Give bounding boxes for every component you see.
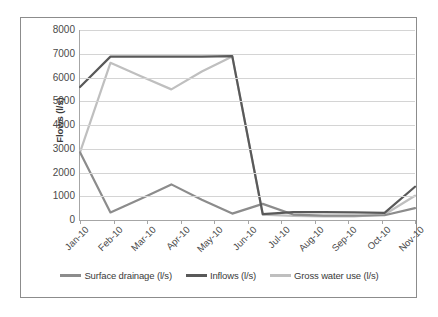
y-axis-tick-label: 6000 [35, 73, 75, 83]
gridline [80, 101, 415, 102]
x-axis-tick-label: Feb-10 [88, 224, 124, 260]
chart-legend: Surface drainage (l/s)Inflows (l/s)Gross… [21, 270, 418, 281]
legend-line-swatch [60, 274, 81, 277]
gridline [80, 149, 415, 150]
y-axis-tick-label: 7000 [35, 49, 75, 59]
x-axis-tick-label: May-10 [189, 224, 225, 260]
gridline [80, 125, 415, 126]
legend-line-swatch [186, 274, 207, 277]
chart-plot-wrapper: Flows (l/s) 8000700060005000400030002000… [21, 18, 418, 299]
y-axis-tick-labels: 800070006000500040003000200010000 [35, 18, 75, 299]
x-axis-tick-label: Oct-10 [356, 224, 392, 260]
x-axis-tick-label: Sep-10 [323, 224, 359, 260]
series-line [80, 152, 415, 215]
gridline [80, 30, 415, 31]
gridline [80, 78, 415, 79]
gridline [80, 196, 415, 197]
gridline [80, 54, 415, 55]
legend-entry[interactable]: Inflows (l/s) [186, 270, 256, 281]
y-axis-tick-label: 0 [35, 215, 75, 225]
legend-line-swatch [270, 274, 291, 277]
legend-label: Inflows (l/s) [210, 270, 256, 281]
legend-entry[interactable]: Surface drainage (l/s) [60, 270, 172, 281]
y-axis-tick-label: 2000 [35, 168, 75, 178]
chart-frame: Flows (l/s) 8000700060005000400030002000… [20, 17, 417, 298]
y-axis-tick-label: 1000 [35, 191, 75, 201]
x-axis-tick-label: Nov-10 [390, 224, 426, 260]
y-axis-tick-label: 3000 [35, 144, 75, 154]
legend-label: Surface drainage (l/s) [84, 270, 172, 281]
x-axis-tick-label: Apr-10 [155, 224, 191, 260]
series-line [80, 56, 415, 214]
gridline [80, 173, 415, 174]
plot-area [79, 30, 415, 221]
legend-entry[interactable]: Gross water use (l/s) [270, 270, 378, 281]
x-axis-tick-label: Mar-10 [122, 224, 158, 260]
x-axis-tick-label: Jul-10 [256, 224, 292, 260]
x-axis-tick-label: Jun-10 [222, 224, 258, 260]
x-axis-tick-label: Aug-10 [289, 224, 325, 260]
y-axis-tick-label: 5000 [35, 96, 75, 106]
y-axis-tick-label: 4000 [35, 120, 75, 130]
legend-label: Gross water use (l/s) [294, 270, 378, 281]
y-axis-tick-label: 8000 [35, 25, 75, 35]
